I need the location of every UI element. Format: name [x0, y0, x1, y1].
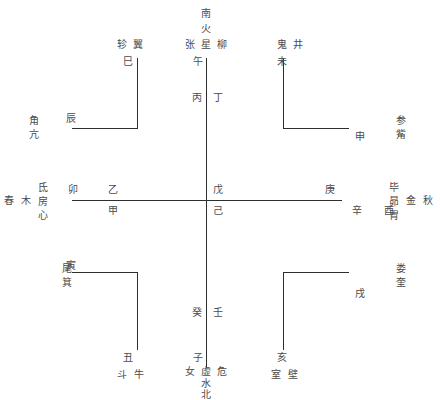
mansion-jiao: 角 — [29, 114, 39, 127]
branch-yin: 寅 — [66, 260, 76, 271]
mansion-gui: 鬼 — [277, 39, 287, 50]
bracket-bottom-right-vertical — [283, 272, 284, 350]
mansion-yi: 翼 — [133, 39, 143, 50]
mansion-lou: 娄 — [396, 262, 406, 275]
mansion-nv: 女 — [185, 366, 195, 377]
stem-ren: 壬 — [213, 307, 223, 318]
bracket-top-right-horizontal — [283, 128, 349, 129]
mansion-di: 氐 — [38, 181, 48, 194]
stem-jia: 甲 — [108, 205, 118, 216]
bracket-top-right-vertical — [283, 58, 284, 128]
mansion-liu: 柳 — [217, 39, 227, 50]
stem-geng: 庚 — [325, 184, 335, 195]
stem-gui: 癸 — [192, 307, 202, 318]
bracket-bottom-left-vertical — [137, 272, 138, 350]
mansion-mao-star: 昴 — [389, 195, 399, 208]
mansion-bi: 毕 — [389, 181, 399, 194]
season-autumn-label: 秋 — [423, 195, 433, 206]
mansion-zi: 觜 — [396, 128, 406, 141]
element-wood-label: 木 — [21, 195, 31, 206]
mansion-kui: 奎 — [396, 276, 406, 289]
element-fire-label: 火 — [201, 23, 211, 34]
branch-shen: 申 — [355, 131, 365, 142]
element-metal-label: 金 — [406, 195, 416, 206]
bracket-bottom-right-horizontal — [283, 272, 349, 273]
mansion-kang: 亢 — [29, 128, 39, 141]
season-spring-label: 春 — [4, 195, 14, 206]
mansion-xing: 星 — [201, 39, 211, 50]
branch-zi: 子 — [193, 352, 203, 363]
mansion-zhang: 张 — [185, 39, 195, 50]
stem-ding: 丁 — [213, 92, 223, 103]
branch-wu-top: 午 — [193, 56, 203, 67]
mansion-dou: 斗 — [117, 369, 127, 380]
central-horizontal-axis — [72, 200, 342, 201]
mansion-zhen: 轸 — [117, 39, 127, 50]
mansion-fang: 房 — [38, 195, 48, 208]
mansion-ji: 箕 — [62, 276, 72, 289]
central-vertical-axis — [206, 58, 207, 368]
stem-xin: 辛 — [352, 205, 362, 216]
branch-wei-top: 未 — [277, 56, 287, 67]
branch-xu: 戌 — [355, 288, 365, 299]
center-stem-wu: 戊 — [213, 184, 223, 195]
bracket-top-left-vertical — [137, 58, 138, 128]
mansion-wei-stomach: 胃 — [389, 209, 399, 222]
stem-yi: 乙 — [108, 184, 118, 195]
bracket-bottom-left-horizontal — [72, 272, 138, 273]
branch-chen: 辰 — [66, 113, 76, 124]
bracket-top-left-horizontal — [72, 128, 138, 129]
mansion-shi: 室 — [271, 369, 281, 380]
center-stem-ji: 己 — [213, 205, 223, 216]
mansion-shen-star: 参 — [396, 114, 406, 127]
branch-hai: 亥 — [277, 352, 287, 363]
direction-north-label: 北 — [201, 389, 211, 400]
mansion-bi-wall: 壁 — [288, 369, 298, 380]
stem-bing: 丙 — [192, 92, 202, 103]
mansion-niu: 牛 — [134, 369, 144, 380]
branch-chou: 丑 — [123, 352, 133, 363]
element-water-label: 水 — [201, 378, 211, 389]
mansion-xin: 心 — [38, 209, 48, 222]
branch-mao: 卯 — [68, 184, 78, 195]
mansion-xu: 虚 — [201, 366, 211, 377]
branch-si: 巳 — [123, 56, 133, 67]
mansion-jing: 井 — [293, 39, 303, 50]
direction-south-label: 南 — [201, 8, 211, 19]
mansion-wei-danger: 危 — [217, 366, 227, 377]
